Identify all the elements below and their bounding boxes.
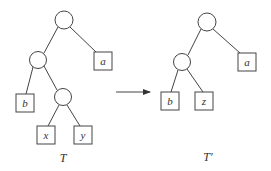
edge-root-n1	[44, 27, 58, 53]
tree-label-t: T	[60, 151, 68, 165]
tree-t-prime: a b z T′	[161, 13, 256, 164]
leaf-label-z: z	[201, 95, 207, 107]
tree-label-t-prime: T′	[203, 150, 213, 164]
edge-root-a	[70, 27, 96, 52]
leaf-x: x	[37, 126, 55, 144]
leaf-label-b: b	[167, 95, 173, 107]
tree-t: a b x y T	[16, 11, 112, 165]
leaf-label-y: y	[80, 129, 86, 141]
edge-n2-x	[48, 105, 59, 126]
internal-node-n2	[55, 89, 72, 106]
leaf-label-b: b	[22, 97, 28, 109]
edge-n1-z	[187, 69, 203, 92]
edge-n1-n2	[44, 66, 57, 90]
leaf-b: b	[16, 94, 34, 112]
edge-root-a	[213, 29, 240, 53]
edge-n1-b	[171, 70, 178, 92]
leaf-a: a	[238, 53, 256, 71]
edge-root-n1	[188, 29, 201, 55]
internal-node-root	[198, 13, 216, 31]
leaf-z: z	[195, 92, 213, 110]
leaf-label-a: a	[100, 55, 106, 67]
leaf-y: y	[74, 126, 92, 144]
edge-n2-y	[67, 105, 80, 126]
leaf-label-x: x	[43, 129, 49, 141]
internal-node-n1	[30, 52, 47, 69]
leaf-a: a	[94, 52, 112, 70]
internal-node-root	[55, 11, 73, 29]
leaf-b: b	[161, 92, 179, 110]
edge-n1-b	[26, 67, 33, 94]
internal-node-n1	[174, 54, 191, 71]
tree-diagram: a b x y T a b	[0, 0, 271, 171]
leaf-label-a: a	[244, 56, 250, 68]
